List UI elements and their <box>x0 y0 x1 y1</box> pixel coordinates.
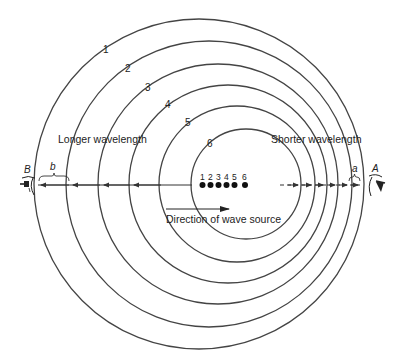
source-dot-1 <box>200 182 206 188</box>
source-dot-6 <box>242 182 248 188</box>
wavefront-label-2: 2 <box>125 63 131 74</box>
source-label-2: 2 <box>208 172 213 182</box>
source-label-3: 3 <box>216 172 221 182</box>
source-dot-3 <box>216 182 222 188</box>
source-dot-4 <box>224 182 230 188</box>
observer-b: B <box>20 164 35 195</box>
doppler-diagram: 1 2 3 4 5 6 Longer wavelength Shorter wa… <box>0 0 405 364</box>
wavefront-label-4: 4 <box>165 99 171 110</box>
source-label-1: 1 <box>200 172 205 182</box>
wavefront-label-3: 3 <box>145 82 151 93</box>
source-positions: 1 2 3 4 5 6 <box>200 172 249 188</box>
spacing-label-b: b <box>50 161 56 172</box>
wavefront-label-1: 1 <box>103 44 109 55</box>
wavefront-label-6: 6 <box>207 138 213 149</box>
observer-label-a: A <box>371 163 379 174</box>
shorter-wavelength-label: Shorter wavelength <box>271 133 362 145</box>
observer-label-b: B <box>24 164 31 175</box>
source-dot-2 <box>208 182 214 188</box>
eye-icon-left <box>20 178 34 195</box>
source-dot-5 <box>232 182 238 188</box>
spacing-label-a: a <box>352 163 358 174</box>
spacing-brace-b: b <box>39 161 69 181</box>
wavefronts <box>34 19 364 349</box>
observer-a: A <box>369 163 385 196</box>
source-label-6: 6 <box>242 172 247 182</box>
longer-wavelength-label: Longer wavelength <box>58 133 147 145</box>
direction-label: Direction of wave source <box>166 213 281 225</box>
source-label-4: 4 <box>224 172 229 182</box>
wavefront-label-5: 5 <box>185 117 191 128</box>
eye-icon-right <box>369 177 385 196</box>
source-label-5: 5 <box>232 172 237 182</box>
